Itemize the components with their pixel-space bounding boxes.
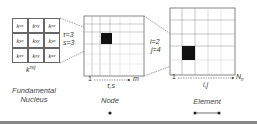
element-axis-start: 1 [172,73,176,80]
element-axis-label: i,j [203,81,208,88]
node-matrix-grid [84,16,144,76]
node-axis-end: m [133,75,139,82]
node-axis-label: τ,s [107,82,115,89]
element-line-icon [194,112,221,115]
element-axis-end: Nn [236,73,244,82]
bottom-rule [0,121,257,124]
node-axis-start: 1 [88,75,92,82]
node-caption: Node [92,96,128,105]
node-dot-icon [108,111,111,114]
element-matrix-grid [170,8,235,75]
element-caption: Element [187,97,227,106]
